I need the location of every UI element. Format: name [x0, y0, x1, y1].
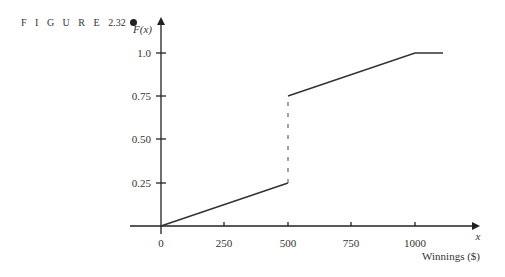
x-tick-label: 250: [216, 237, 233, 249]
cdf-segment-2: [288, 53, 443, 96]
y-tick-label: 0.25: [132, 177, 152, 189]
y-axis-label: F(x): [132, 23, 152, 36]
x-tick-label: 1000: [404, 237, 427, 249]
cdf-chart: 1.0 0.75 0.50 0.25 0 250 500 750 1000 F(…: [0, 0, 505, 277]
y-tick-label: 0.75: [132, 90, 152, 102]
x-tick-label: 750: [343, 237, 360, 249]
cdf-segment-1: [161, 183, 288, 226]
x-axis-label: x: [475, 230, 481, 242]
y-tick-label: 1.0: [137, 47, 151, 59]
x-tick-label: 0: [158, 237, 164, 249]
x-tick-label: 500: [280, 237, 297, 249]
y-tick-label: 0.50: [132, 133, 152, 145]
x-axis-secondary-label: Winnings ($): [422, 250, 480, 263]
